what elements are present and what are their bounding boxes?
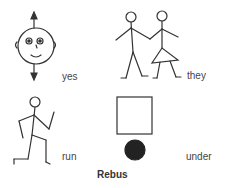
label-run: run xyxy=(62,151,76,162)
face-with-up-down-arrows-icon xyxy=(16,12,56,80)
label-they: they xyxy=(187,70,206,81)
label-under: under xyxy=(186,151,212,162)
circle-under-square-icon xyxy=(117,97,152,160)
caption-title: Rebus xyxy=(97,169,128,180)
two-stick-figures-holding-hands-icon xyxy=(116,11,181,78)
label-yes: yes xyxy=(62,71,78,82)
running-stick-figure-icon xyxy=(14,97,54,164)
